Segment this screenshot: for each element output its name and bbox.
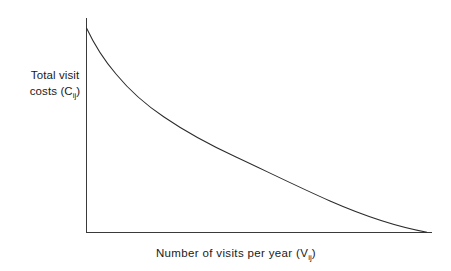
chart-figure: Total visit costs (Cij) Number of visits… bbox=[0, 0, 451, 271]
plot-area bbox=[0, 0, 451, 271]
x-axis-label-prefix: Number of visits per year (V bbox=[156, 247, 308, 259]
y-axis-label-line1: Total visit bbox=[18, 68, 92, 84]
y-axis-label: Total visit costs (Cij) bbox=[18, 68, 92, 103]
y-axis-label-line2: costs (Cij) bbox=[18, 84, 92, 104]
x-axis-label-suffix: ) bbox=[312, 247, 316, 259]
y-axis-label-prefix: costs (C bbox=[30, 85, 73, 97]
cost-curve bbox=[87, 28, 428, 232]
x-axis-label: Number of visits per year (Vij) bbox=[86, 246, 386, 265]
y-axis-label-suffix: ) bbox=[76, 85, 80, 97]
